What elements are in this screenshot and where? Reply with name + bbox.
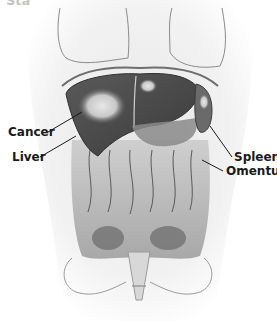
omentum-label: Omentum <box>226 164 277 178</box>
omentum <box>71 140 210 259</box>
liver-label: Liver <box>12 150 46 164</box>
tumor-large <box>78 88 126 124</box>
cancer-label: Cancer <box>8 125 55 139</box>
anatomy-illustration: Stage III <box>0 0 277 321</box>
tumor-small <box>139 79 157 93</box>
spleen-label: Spleen <box>234 150 277 164</box>
